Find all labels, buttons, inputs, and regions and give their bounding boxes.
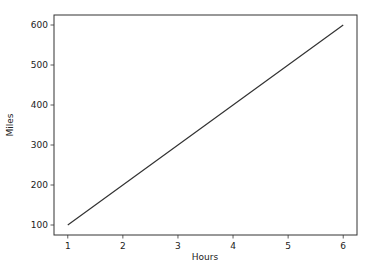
- y-tick-label: 400: [31, 100, 48, 110]
- y-tick-label: 100: [31, 220, 48, 230]
- x-tick-label: 5: [285, 241, 291, 251]
- y-tick-label: 300: [31, 140, 48, 150]
- data-line: [68, 25, 343, 225]
- plot-area: 123456100200300400500600: [31, 15, 357, 251]
- x-tick-label: 2: [120, 241, 126, 251]
- x-tick-label: 6: [340, 241, 346, 251]
- y-axis-label: Miles: [5, 113, 15, 136]
- y-tick-label: 500: [31, 60, 48, 70]
- x-tick-label: 3: [175, 241, 181, 251]
- line-chart: 123456100200300400500600 Hours Miles: [0, 0, 375, 272]
- y-tick-label: 600: [31, 20, 48, 30]
- x-tick-label: 1: [65, 241, 71, 251]
- y-tick-label: 200: [31, 180, 48, 190]
- x-tick-label: 4: [230, 241, 236, 251]
- x-axis-label: Hours: [192, 252, 219, 262]
